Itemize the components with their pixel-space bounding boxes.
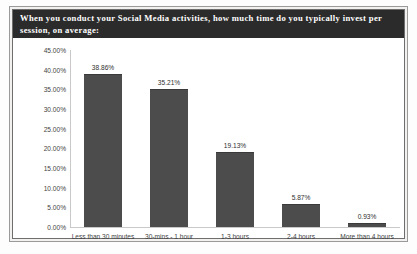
chart-title: When you conduct your Social Media activ… <box>13 10 404 38</box>
x-axis-category-label: More than 4 hours <box>340 233 394 240</box>
x-axis-category-label: Less than 30 minutes <box>72 233 135 240</box>
y-axis-tick-label: 5.00% <box>47 204 66 211</box>
y-axis-tick-label: 15.00% <box>44 165 66 172</box>
y-axis-tick-label: 0.00% <box>47 224 66 231</box>
bar[interactable] <box>282 204 320 227</box>
bar-value-label: 35.21% <box>158 79 180 86</box>
plot-area: 0.00%5.00%10.00%15.00%20.00%25.00%30.00%… <box>70 50 400 227</box>
y-axis-tick-label: 40.00% <box>44 66 66 73</box>
bar-group: 38.86%Less than 30 minutes <box>70 50 136 227</box>
bar-group: 0.93%More than 4 hours <box>334 50 400 227</box>
y-axis-tick-label: 35.00% <box>44 86 66 93</box>
y-axis-tick-label: 10.00% <box>44 184 66 191</box>
chart-plot-panel: 0.00%5.00%10.00%15.00%20.00%25.00%30.00%… <box>13 38 404 238</box>
bar[interactable] <box>150 89 188 227</box>
x-axis-category-label: 30-mins - 1 hour <box>145 233 193 240</box>
bar[interactable] <box>216 152 254 227</box>
y-axis-tick-label: 45.00% <box>44 47 66 54</box>
bar-value-label: 38.86% <box>92 64 114 71</box>
y-axis-tick-label: 20.00% <box>44 145 66 152</box>
x-axis-category-label: 1-3 hours <box>221 233 249 240</box>
chart-figure: When you conduct your Social Media activ… <box>0 0 417 254</box>
bar-value-label: 5.87% <box>292 194 311 201</box>
bar[interactable] <box>348 223 386 227</box>
x-axis-category-label: 2-4 hours <box>287 233 315 240</box>
bar-group: 35.21%30-mins - 1 hour <box>136 50 202 227</box>
bar-value-label: 0.93% <box>358 213 377 220</box>
y-axis-tick-label: 30.00% <box>44 106 66 113</box>
bar-value-label: 19.13% <box>224 142 246 149</box>
x-axis-line <box>70 227 400 228</box>
bar[interactable] <box>84 74 122 227</box>
y-axis-tick-label: 25.00% <box>44 125 66 132</box>
bar-group: 5.87%2-4 hours <box>268 50 334 227</box>
bar-group: 19.13%1-3 hours <box>202 50 268 227</box>
